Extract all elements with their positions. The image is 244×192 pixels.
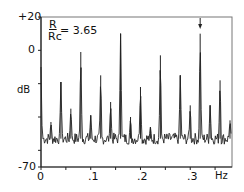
ytick-bottom: -70 — [18, 160, 36, 173]
xtick-3: .3 — [187, 170, 198, 183]
xtick-1: .1 — [88, 170, 99, 183]
x-axis-label: Hz — [215, 170, 228, 181]
spectrum-chart: +20 0 -70 dB 0 .1 .2 .3 Hz R Rc = 3.65 — [0, 0, 244, 192]
ytick-top: +20 — [18, 10, 41, 23]
ytick-zero: 0 — [28, 43, 35, 56]
ratio-value: = 3.65 — [60, 24, 97, 37]
xtick-2: .2 — [137, 170, 148, 183]
y-axis-label: dB — [17, 84, 30, 95]
plot-area — [0, 0, 244, 192]
xtick-0: 0 — [37, 170, 44, 183]
